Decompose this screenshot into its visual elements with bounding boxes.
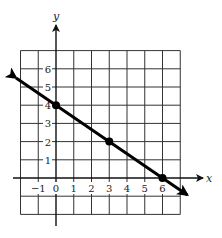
y-tick-labels: 123456	[43, 63, 52, 166]
x-tick-label: 5	[142, 183, 148, 194]
y-tick-label: 6	[45, 64, 51, 75]
data-point	[159, 174, 167, 182]
x-tick-label: 1	[71, 183, 77, 194]
y-axis-label: y	[52, 10, 60, 23]
coordinate-plane: x y −10123456 123456	[0, 0, 222, 238]
data-point	[105, 138, 113, 146]
x-tick-label: 2	[88, 183, 94, 194]
x-tick-label: 6	[159, 183, 165, 194]
x-tick-labels: −10123456	[31, 182, 169, 194]
x-tick-label: 4	[124, 183, 130, 194]
y-tick-label: 5	[45, 82, 51, 93]
y-tick-label: 2	[45, 137, 51, 148]
x-axis-label: x	[206, 172, 213, 185]
x-tick-label: 3	[106, 183, 112, 194]
data-point	[52, 101, 60, 109]
x-tick-label: −1	[31, 183, 46, 194]
x-tick-label: 0	[53, 183, 59, 194]
y-tick-label: 1	[45, 155, 51, 166]
y-tick-label: 3	[45, 118, 51, 129]
